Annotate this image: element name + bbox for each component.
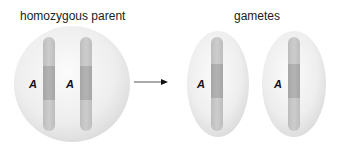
allele-band: [80, 66, 92, 100]
chromosome-2: [80, 37, 92, 131]
allele-label: A: [273, 78, 282, 90]
meiosis-diagram: A A A A: [0, 0, 342, 144]
allele-band: [43, 66, 55, 100]
allele-band: [211, 64, 223, 98]
parent-cell: A A: [14, 26, 130, 142]
chromosome-1: [43, 37, 55, 131]
allele-label: A: [196, 78, 205, 90]
right-arrow-icon: [134, 79, 168, 85]
allele-label: A: [28, 78, 37, 90]
gamete-1: A: [187, 31, 249, 137]
gamete-2: A: [262, 31, 326, 137]
allele-band: [288, 64, 300, 98]
allele-label: A: [65, 78, 74, 90]
